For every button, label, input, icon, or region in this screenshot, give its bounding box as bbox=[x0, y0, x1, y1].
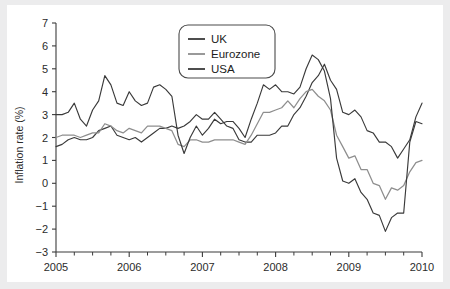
y-tick-label: −3 bbox=[35, 246, 48, 258]
y-tick-label: 6 bbox=[42, 40, 48, 52]
inflation-rate-line-chart: Inflation rate (%) 76543210−1−2−3 200520… bbox=[7, 5, 443, 282]
x-tick-label: 2008 bbox=[263, 261, 287, 273]
legend-label-uk: UK bbox=[211, 33, 227, 45]
y-tick-label: 4 bbox=[42, 86, 48, 98]
chart-legend: UKEurozoneUSA bbox=[179, 25, 275, 78]
chart-figure: Inflation rate (%) 76543210−1−2−3 200520… bbox=[7, 5, 443, 282]
x-tick-label: 2010 bbox=[410, 261, 434, 273]
x-tick-label: 2009 bbox=[337, 261, 361, 273]
y-tick-label: 5 bbox=[42, 63, 48, 75]
y-tick-label: 2 bbox=[42, 132, 48, 144]
y-tick-label: −1 bbox=[35, 200, 48, 212]
y-axis-label: Inflation rate (%) bbox=[13, 106, 25, 183]
x-tick-label: 2006 bbox=[117, 261, 141, 273]
x-tick-label: 2007 bbox=[190, 261, 214, 273]
legend-label-eurozone: Eurozone bbox=[211, 48, 260, 60]
y-tick-label: 0 bbox=[42, 177, 48, 189]
y-tick-label: 7 bbox=[42, 17, 48, 29]
y-tick-label: 1 bbox=[42, 154, 48, 166]
x-tick-label: 2005 bbox=[44, 261, 68, 273]
y-tick-label: −2 bbox=[35, 223, 48, 235]
legend-label-usa: USA bbox=[211, 63, 235, 75]
y-tick-label: 3 bbox=[42, 109, 48, 121]
